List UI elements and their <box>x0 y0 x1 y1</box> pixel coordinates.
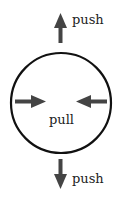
arrow-down-icon <box>54 159 67 189</box>
arrow-up-icon <box>54 13 67 43</box>
pull-label: pull <box>49 113 74 126</box>
push-label-bottom: push <box>72 172 104 185</box>
arrow-left-icon <box>76 95 107 108</box>
push-label-top: push <box>72 13 104 26</box>
arrow-right-icon <box>15 95 46 108</box>
